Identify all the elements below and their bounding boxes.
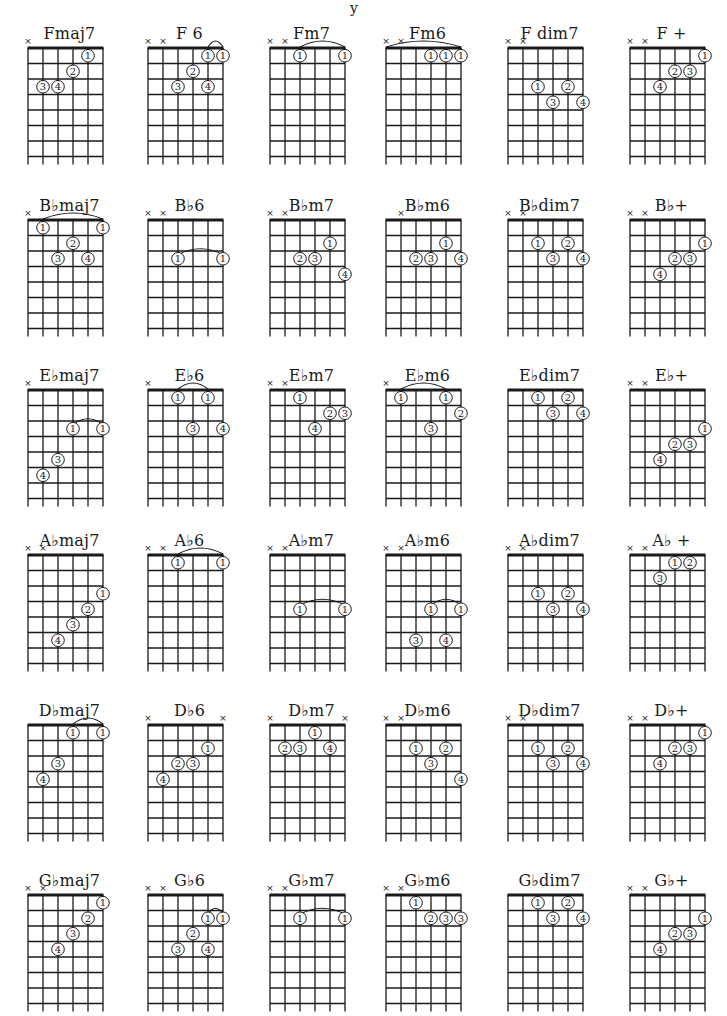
fretboard-grid: ××11234 [138,871,248,1016]
muted-string-icon: × [504,208,512,218]
finger-marker: 3 [684,252,697,265]
svg-text:3: 3 [55,454,61,465]
muted-string-icon: × [24,543,32,553]
finger-marker: 1 [294,912,307,925]
svg-text:3: 3 [428,423,434,434]
chord-diagram: F dim7××1234 [498,24,608,174]
svg-text:1: 1 [342,604,348,615]
finger-marker: 3 [684,65,697,78]
chord-diagram: E♭m6×1123 [376,366,486,516]
svg-text:1: 1 [220,913,226,924]
svg-text:3: 3 [428,758,434,769]
finger-marker: 4 [654,757,667,770]
svg-text:1: 1 [443,50,449,61]
svg-text:1: 1 [40,222,46,233]
svg-text:2: 2 [672,439,678,450]
finger-marker: 4 [577,603,590,616]
chord-diagram: E♭6×1134 [138,366,248,516]
svg-text:3: 3 [458,913,464,924]
fretboard-grid: ×1123 [376,366,486,516]
svg-text:2: 2 [413,253,419,264]
finger-marker: 1 [532,80,545,93]
muted-string-icon: × [504,713,512,723]
svg-text:1: 1 [428,50,434,61]
finger-marker: 4 [654,80,667,93]
finger-marker: 1 [172,391,185,404]
fretboard-grid: ×1134 [138,366,248,516]
barre-arc [208,41,223,47]
finger-marker: 2 [67,237,80,250]
svg-text:1: 1 [297,604,303,615]
finger-marker: 3 [684,742,697,755]
fretboard-grid: 1234 [498,871,608,1016]
svg-text:1: 1 [702,50,708,61]
muted-string-icon: × [382,543,390,553]
svg-text:4: 4 [580,758,586,769]
finger-marker: 4 [577,407,590,420]
svg-text:4: 4 [657,944,663,955]
fretboard-grid: ×1134 [18,366,128,516]
chord-diagram: G♭+××1234 [620,871,727,1016]
muted-string-icon: × [641,208,649,218]
chord-diagram: G♭6××11234 [138,871,248,1016]
finger-marker: 2 [279,742,292,755]
finger-marker: 2 [172,757,185,770]
finger-marker: 1 [172,252,185,265]
finger-marker: 1 [202,391,215,404]
chord-diagram: D♭m7××1234 [260,701,370,851]
finger-marker: 1 [440,391,453,404]
svg-text:3: 3 [687,66,693,77]
muted-string-icon: × [266,378,274,388]
fretboard-grid: 1234 [498,366,608,516]
muted-string-icon: × [626,713,634,723]
svg-text:2: 2 [565,392,571,403]
muted-string-icon: × [24,36,32,46]
svg-text:1: 1 [220,557,226,568]
finger-marker: 3 [309,252,322,265]
finger-marker: 3 [52,757,65,770]
svg-text:1: 1 [175,557,181,568]
finger-marker: 1 [217,252,230,265]
finger-marker: 1 [217,912,230,925]
svg-text:3: 3 [687,743,693,754]
svg-text:2: 2 [297,253,303,264]
svg-text:3: 3 [550,913,556,924]
muted-string-icon: × [626,36,634,46]
finger-marker: 1 [425,603,438,616]
finger-marker: 1 [294,603,307,616]
svg-text:2: 2 [70,66,76,77]
finger-marker: 3 [410,634,423,647]
muted-string-icon: × [281,208,289,218]
finger-marker: 1 [410,742,423,755]
muted-string-icon: × [641,36,649,46]
muted-string-icon: × [382,883,390,893]
finger-marker: 3 [684,438,697,451]
muted-string-icon: × [24,378,32,388]
fretboard-grid: ××1234 [260,366,370,516]
finger-marker: 2 [82,603,95,616]
svg-text:4: 4 [220,423,226,434]
finger-marker: 2 [562,237,575,250]
finger-marker: 4 [52,80,65,93]
muted-string-icon: × [159,543,167,553]
svg-text:2: 2 [428,913,434,924]
svg-text:1: 1 [205,743,211,754]
muted-string-icon: × [397,543,405,553]
finger-marker: 4 [577,912,590,925]
svg-text:4: 4 [580,253,586,264]
fretboard-grid: ××1234 [498,701,608,851]
finger-marker: 4 [654,943,667,956]
finger-marker: 3 [52,453,65,466]
finger-marker: 1 [202,49,215,62]
finger-marker: 1 [699,237,712,250]
svg-text:1: 1 [175,392,181,403]
svg-text:4: 4 [657,758,663,769]
svg-text:1: 1 [70,423,76,434]
muted-string-icon: × [382,378,390,388]
chord-diagram: Fm7××11 [260,24,370,174]
svg-text:1: 1 [443,238,449,249]
svg-text:1: 1 [535,897,541,908]
chord-diagram: E♭+××1234 [620,366,727,516]
muted-string-icon: × [281,36,289,46]
svg-text:2: 2 [458,408,464,419]
